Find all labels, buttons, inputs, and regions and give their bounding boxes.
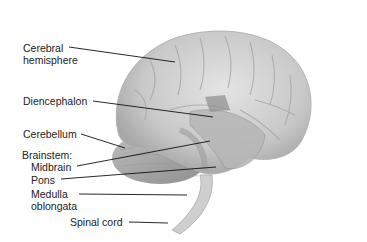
label-medulla-oblongata: Medulla oblongata [31,188,77,212]
label-cerebellum: Cerebellum [23,128,77,140]
label-brainstem: Brainstem: [22,149,72,161]
label-line: oblongata [31,200,77,212]
label-line: Medulla [31,188,77,200]
label-cerebral-hemisphere: Cerebral hemisphere [23,42,78,66]
label-line: hemisphere [23,54,78,66]
label-line: Cerebral [23,42,78,54]
label-spinal-cord: Spinal cord [70,216,123,228]
spinal-cord-shape [172,175,212,234]
label-pons: Pons [31,174,55,186]
label-midbrain: Midbrain [31,161,71,173]
label-diencephalon: Diencephalon [23,95,87,107]
